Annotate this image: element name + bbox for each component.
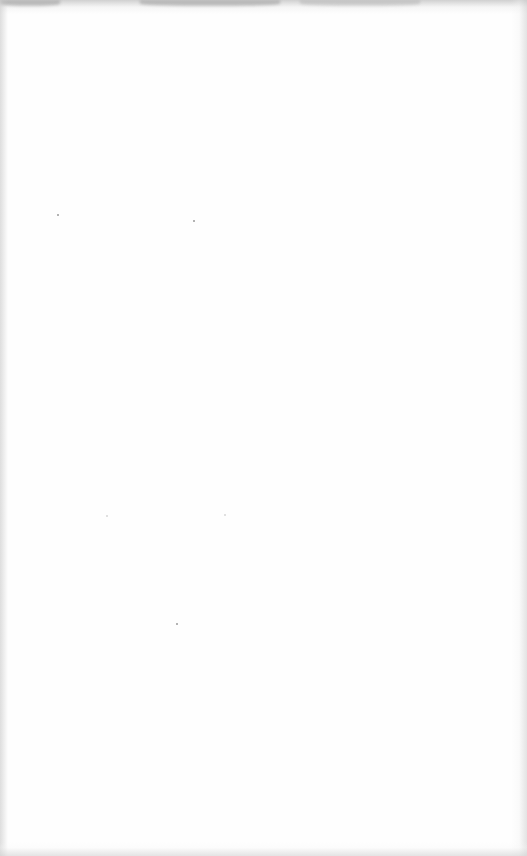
scan-speck	[224, 514, 226, 516]
scan-speck	[176, 623, 178, 625]
scan-edge-right	[511, 0, 527, 856]
scan-shadow-top-left	[0, 0, 60, 6]
scan-shadow-top-center	[140, 0, 280, 6]
scan-edge-left	[0, 0, 8, 856]
blank-page	[0, 0, 527, 856]
scan-speck	[106, 515, 108, 517]
scan-edge-bottom	[0, 842, 527, 856]
scan-shadow-top-right	[300, 0, 420, 6]
scan-speck	[193, 220, 195, 222]
scan-speck	[57, 214, 59, 216]
